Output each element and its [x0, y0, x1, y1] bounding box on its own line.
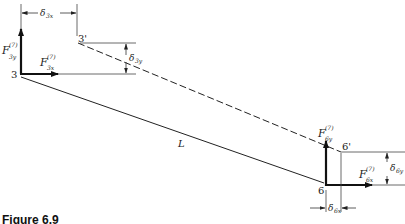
- disp-label-d6y: δ 6y: [390, 163, 404, 175]
- svg-text:(7): (7): [9, 41, 18, 48]
- force-label-F6y: F (7) 6y: [317, 124, 334, 143]
- svg-text:6y: 6y: [396, 167, 404, 175]
- svg-text:6y: 6y: [325, 135, 333, 143]
- force-label-F3x: F (7) 3x: [39, 53, 56, 71]
- disp-label-d3y: δ 3y: [129, 53, 143, 65]
- element-line-original: [21, 77, 324, 183]
- svg-text:(7): (7): [47, 53, 56, 60]
- force-label-F3y: F (7) 3y: [1, 41, 18, 61]
- node-label-6: 6: [318, 185, 324, 196]
- node-label-3: 3: [11, 69, 17, 80]
- truss-element-diagram: 3 3' 6 6' L F (7) 3y F (7) 3x F (7) 6y F…: [0, 0, 405, 224]
- disp-label-d6x: δ 6x: [328, 203, 342, 214]
- svg-text:3x: 3x: [46, 12, 54, 19]
- svg-text:3y: 3y: [135, 57, 143, 65]
- length-label: L: [177, 138, 185, 149]
- svg-text:3y: 3y: [9, 53, 17, 61]
- element-line-displaced: [78, 43, 341, 152]
- node-label-6p: 6': [342, 141, 351, 152]
- svg-text:3x: 3x: [47, 64, 55, 71]
- force-label-F6x: F (7) 6x: [358, 165, 375, 183]
- node-label-3p: 3': [78, 33, 87, 44]
- svg-text:δ: δ: [40, 8, 45, 18]
- figure-caption: Figure 6.9: [2, 213, 59, 224]
- svg-text:δ: δ: [328, 203, 333, 213]
- svg-text:(7): (7): [366, 165, 375, 172]
- svg-text:δ: δ: [129, 53, 134, 63]
- svg-text:(7): (7): [325, 124, 334, 131]
- svg-text:6x: 6x: [366, 176, 374, 183]
- svg-text:δ: δ: [390, 163, 395, 173]
- disp-label-d3x: δ 3x: [40, 8, 54, 19]
- svg-text:6x: 6x: [334, 207, 342, 214]
